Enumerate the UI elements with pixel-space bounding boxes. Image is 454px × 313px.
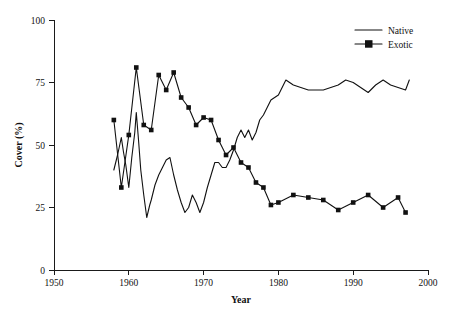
- data-point-marker: [291, 193, 296, 198]
- data-point-marker: [351, 200, 356, 205]
- data-point-marker: [127, 133, 132, 138]
- y-tick-label-25: 25: [36, 203, 46, 213]
- data-point-marker: [209, 118, 214, 123]
- x-tick-label-1960: 1960: [119, 278, 138, 288]
- chart-legend: Native Exotic: [355, 26, 413, 50]
- data-point-marker: [276, 200, 281, 205]
- data-point-marker: [164, 88, 169, 93]
- y-axis-title: Cover (%): [13, 122, 25, 167]
- data-point-marker: [246, 165, 251, 170]
- data-point-marker: [269, 203, 274, 208]
- data-point-marker: [396, 195, 401, 200]
- series-exotic: [112, 65, 408, 215]
- x-axis-ticks: [54, 270, 428, 275]
- legend-native-label: Native: [388, 26, 413, 36]
- data-point-marker: [231, 145, 236, 150]
- data-point-marker: [134, 65, 139, 70]
- data-point-marker: [141, 123, 146, 128]
- legend-exotic-marker: [365, 40, 373, 48]
- chart-figure: 100 75 50 25 0 1950 1960 1970 1980 1990 …: [0, 0, 454, 313]
- data-point-marker: [366, 193, 371, 198]
- data-point-marker: [403, 210, 408, 215]
- data-point-marker: [149, 128, 154, 133]
- x-tick-label-1980: 1980: [269, 278, 288, 288]
- data-point-marker: [156, 73, 161, 78]
- data-point-marker: [194, 123, 199, 128]
- data-point-marker: [171, 70, 176, 75]
- data-point-marker: [179, 95, 184, 100]
- y-tick-label-100: 100: [31, 16, 46, 26]
- data-point-marker: [321, 198, 326, 203]
- legend-exotic-label: Exotic: [388, 40, 413, 50]
- y-axis-ticks: [49, 20, 54, 270]
- y-tick-label-0: 0: [40, 266, 45, 276]
- y-tick-label-75: 75: [36, 78, 46, 88]
- x-tick-label-1950: 1950: [45, 278, 64, 288]
- data-point-marker: [224, 153, 229, 158]
- data-point-marker: [306, 195, 311, 200]
- data-point-marker: [216, 138, 221, 143]
- data-point-marker: [381, 205, 386, 210]
- series-line-exotic: [114, 68, 406, 213]
- x-tick-label-2000: 2000: [419, 278, 438, 288]
- data-point-marker: [119, 185, 124, 190]
- x-tick-label-1970: 1970: [194, 278, 213, 288]
- y-tick-label-50: 50: [36, 141, 46, 151]
- data-point-marker: [112, 118, 117, 123]
- cover-vs-year-line-chart: 100 75 50 25 0 1950 1960 1970 1980 1990 …: [0, 0, 454, 313]
- data-point-marker: [201, 115, 206, 120]
- data-point-marker: [336, 208, 341, 213]
- data-point-marker: [261, 185, 266, 190]
- x-tick-label-1990: 1990: [344, 278, 363, 288]
- data-point-marker: [239, 160, 244, 165]
- data-point-marker: [186, 105, 191, 110]
- x-axis-title: Year: [231, 294, 252, 305]
- data-point-marker: [254, 180, 259, 185]
